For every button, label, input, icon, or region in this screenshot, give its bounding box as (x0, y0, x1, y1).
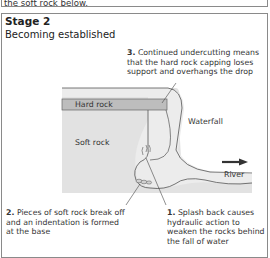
waterfall-label: Waterfall (188, 117, 223, 127)
note-3: 3. Continued undercutting means that the… (127, 48, 259, 77)
soft-rock-label: Soft rock (75, 138, 109, 148)
note-2: 2. Pieces of soft rock break off and an … (6, 208, 125, 237)
river-label: River (224, 170, 244, 180)
river-flow-arrow-head (239, 159, 248, 166)
note-1: 1. Splash back causes hydraulic action t… (167, 208, 265, 246)
rock-piece (146, 181, 151, 184)
rock-piece (141, 180, 147, 184)
hard-rock-label: Hard rock (75, 100, 113, 110)
